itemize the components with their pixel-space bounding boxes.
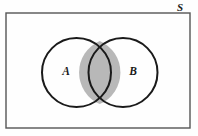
venn-diagram-figure: A B S	[0, 0, 198, 136]
venn-diagram-canvas: A B S	[0, 0, 198, 136]
universal-set-label: S	[177, 1, 183, 13]
set-b-label: B	[128, 65, 137, 77]
set-a-label: A	[61, 65, 70, 77]
